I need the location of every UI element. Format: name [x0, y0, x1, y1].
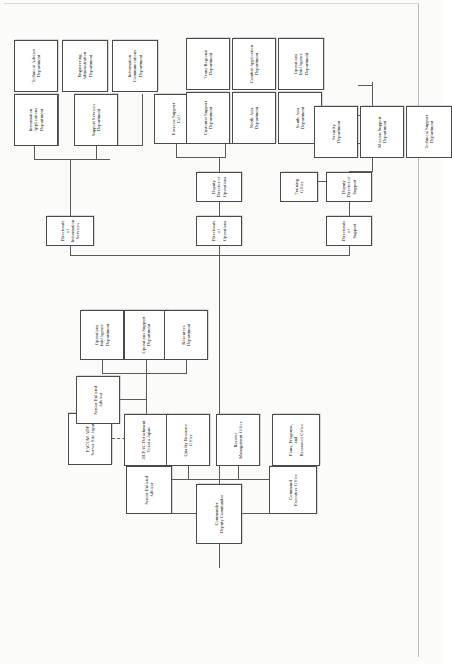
node-command-executive-office[interactable]: Command Executive Office	[269, 466, 317, 514]
node-directorate-of-information-services[interactable]: Directorate of Information Services	[46, 216, 94, 246]
connector-spine-to-dis	[70, 255, 220, 256]
node-north-asia-department[interactable]: North Asia Department	[232, 92, 276, 144]
connector-dop-depts	[225, 144, 226, 158]
connector-dop-esc	[176, 144, 177, 158]
connector-jicpac-resources	[186, 360, 187, 374]
node-technical-advisor-department[interactable]: Technical Advisor Department	[14, 40, 58, 92]
connector-jicpac-out	[146, 374, 147, 414]
node-deputy-director-of-support[interactable]: Deputy Director of Support	[326, 172, 372, 202]
connector-jicpac-dept-rail	[102, 373, 186, 374]
node-plans-programs-resources-office[interactable]: Plans, Programs, and Resources Office	[272, 414, 320, 466]
connector-staff-to-reserve	[238, 466, 239, 480]
node-information-communications-department[interactable]: Information Communications Department	[112, 40, 158, 92]
connector-jicpac-opsintel	[102, 360, 103, 374]
connector-dis-row1	[34, 146, 35, 160]
connector-dis-out	[70, 160, 71, 216]
node-senior-enlisted-advisor-top[interactable]: Senior Enlisted Advisor	[126, 466, 172, 514]
node-operations-support-department[interactable]: Operations Support Department	[124, 310, 168, 360]
node-combat-application-department[interactable]: Combat Application Department	[232, 38, 276, 90]
node-mission-support-department[interactable]: Mission Support Department	[360, 106, 404, 158]
connector-dop-deputy	[219, 202, 220, 216]
connector-dis-rail	[34, 159, 110, 160]
node-resources-department[interactable]: Resources Department	[164, 310, 208, 360]
node-customer-support-department[interactable]: Customer Support Department	[186, 92, 230, 144]
node-engineering-administration-department[interactable]: Engineering Administration Department	[62, 40, 108, 92]
connector-jicpac-sea	[120, 399, 146, 400]
connector-dos-depts-stub	[372, 158, 373, 172]
node-operations-intelligence-department-detachment[interactable]: Operations Intelligence Department	[80, 310, 124, 360]
connector-deputy-out	[219, 158, 220, 172]
node-operations-intelligence-department-operations[interactable]: Operations Intelligence Department	[278, 38, 324, 90]
node-training-office[interactable]: Training Office	[280, 172, 318, 202]
node-security-department[interactable]: Security Department	[314, 106, 358, 158]
connector-dop-esc-rail	[176, 157, 220, 158]
node-trans-regional-department[interactable]: Trans-Regional Department	[186, 38, 230, 90]
node-directorate-of-support[interactable]: Directorate of Support	[326, 216, 372, 246]
node-reserve-management-office[interactable]: Reserve Management Office	[216, 414, 260, 466]
node-jicpac-detachment[interactable]: JICPAC Detachment Yokota Japan	[124, 414, 168, 466]
node-technical-support-department[interactable]: Technical Support Department	[406, 106, 452, 158]
connector-dop-stub	[219, 246, 220, 256]
node-quality-resource-office[interactable]: Quality Resource Office	[166, 414, 210, 466]
node-information-applications-department[interactable]: Information Applications Department	[14, 94, 58, 146]
connector-dis-grp2-bot	[142, 94, 143, 146]
connector-staff-to-quality	[188, 466, 189, 480]
connector-dis-grp1-bot	[58, 94, 59, 146]
node-deputy-director-of-operations[interactable]: Deputy Director of Operations	[196, 172, 242, 202]
node-support-services-department[interactable]: Support Services Department	[74, 94, 118, 146]
node-directorate-of-operations[interactable]: Directorate of Operations	[196, 216, 242, 246]
connector-dis-stub	[70, 246, 71, 256]
connector-dos-stub	[349, 246, 350, 256]
connector-jicpac-opssupport	[146, 360, 147, 374]
connector-dos-technical	[358, 85, 372, 86]
connector-spine-to-dos	[219, 255, 349, 256]
node-commander[interactable]: Commander Deputy Commander	[196, 484, 242, 544]
connector-dos-deputy	[349, 202, 350, 216]
connector-dis-row2	[96, 146, 97, 160]
node-senior-enlisted-advisor-detachment[interactable]: Senior Enlisted Advisor	[76, 376, 120, 424]
